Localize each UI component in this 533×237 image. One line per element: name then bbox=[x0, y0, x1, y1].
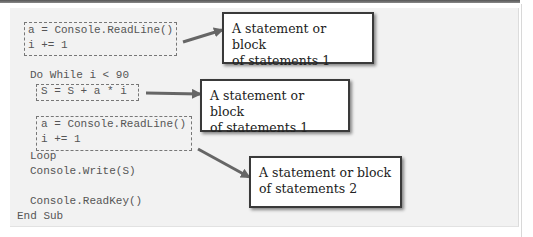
callout-1-line1: A statement or block bbox=[232, 21, 364, 53]
callout-3-line1: A statement or block bbox=[259, 165, 392, 181]
arrow-1-icon bbox=[183, 30, 222, 42]
arrow-3-icon bbox=[198, 149, 249, 177]
arrow-2-icon bbox=[146, 93, 200, 94]
callout-1: A statement or block of statements 1 bbox=[222, 12, 374, 64]
callout-2-line2: of statements 1 bbox=[210, 120, 340, 136]
callout-2: A statement or block of statements 1 bbox=[200, 79, 350, 132]
callout-3-line2: of statements 2 bbox=[259, 181, 392, 197]
callout-2-line1: A statement or block bbox=[210, 88, 340, 120]
callout-1-line2: of statements 1 bbox=[232, 53, 364, 69]
callout-3: A statement or block of statements 2 bbox=[249, 156, 402, 208]
